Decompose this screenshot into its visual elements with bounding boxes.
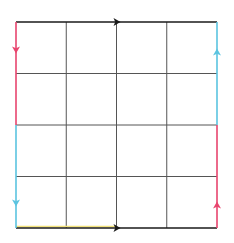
grid-lines (16, 22, 217, 228)
grid-diagram (0, 0, 234, 243)
